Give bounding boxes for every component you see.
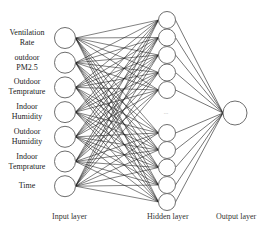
hidden-node xyxy=(159,29,176,46)
hidden-node xyxy=(159,194,176,211)
input-label-line: Time xyxy=(1,181,53,191)
input-label-line: Temprature xyxy=(1,87,53,97)
hidden-node xyxy=(159,159,176,176)
hidden-node xyxy=(159,177,176,194)
input-node xyxy=(55,126,76,147)
connection-edge xyxy=(176,20,224,113)
input-label-line: Outdoor xyxy=(1,77,53,87)
connection-edge xyxy=(176,113,224,185)
hidden-node xyxy=(159,82,176,99)
input-label-line: PM2.5 xyxy=(1,63,53,73)
input-label: Time xyxy=(1,181,53,191)
input-label: VentilationRate xyxy=(1,28,53,48)
input-node xyxy=(55,77,76,98)
input-label-line: Ventilation xyxy=(1,28,53,38)
connection-edge xyxy=(176,113,224,168)
hidden-node xyxy=(159,47,176,64)
input-label-line: Indoor xyxy=(1,152,53,162)
input-label-line: Humidity xyxy=(1,137,53,147)
hidden-node xyxy=(159,142,176,159)
output-node xyxy=(223,101,247,125)
connection-edge xyxy=(176,113,224,150)
connection-edge xyxy=(76,20,159,112)
hidden-layer-label: Hidden layer xyxy=(147,212,189,221)
input-label-line: Outdoor xyxy=(1,127,53,137)
input-node xyxy=(55,28,76,49)
input-node xyxy=(55,151,76,172)
connection-edge xyxy=(176,55,224,113)
input-node xyxy=(55,176,76,197)
connection-edge xyxy=(176,73,224,114)
input-label-line: Rate xyxy=(1,38,53,48)
connections xyxy=(76,20,224,202)
input-node xyxy=(55,102,76,123)
input-label: outdoorPM2.5 xyxy=(1,53,53,73)
hidden-node xyxy=(159,64,176,81)
input-layer-label: Input layer xyxy=(52,212,87,221)
input-label: OutdoorTemprature xyxy=(1,77,53,97)
connection-edge xyxy=(76,20,159,186)
input-node xyxy=(55,52,76,73)
hidden-node xyxy=(159,125,176,142)
input-label-line: Humidity xyxy=(1,112,53,122)
connection-edge xyxy=(76,55,159,137)
connection-edge xyxy=(76,20,159,87)
input-label: OutdoorHumidity xyxy=(1,127,53,147)
connection-edge xyxy=(76,185,159,186)
input-label-line: outdoor xyxy=(1,53,53,63)
hidden-node xyxy=(159,12,176,29)
output-layer-label: Output layer xyxy=(216,212,256,221)
input-label: IndoorTemprature xyxy=(1,152,53,172)
connection-edge xyxy=(176,113,224,202)
input-label-line: Indoor xyxy=(1,102,53,112)
connection-edge xyxy=(76,20,159,38)
input-label: IndoorHumidity xyxy=(1,102,53,122)
hidden-ellipsis: ... xyxy=(164,109,169,115)
input-label-line: Temprature xyxy=(1,162,53,172)
connection-edge xyxy=(176,113,224,133)
